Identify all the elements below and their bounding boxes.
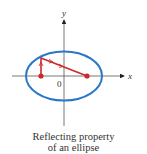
x-axis-label: x [127, 71, 132, 81]
origin-label: 0 [57, 79, 62, 89]
focus-right [84, 73, 89, 78]
caption-line-2: of an ellipse [0, 142, 147, 153]
focus-left [38, 73, 43, 78]
caption-line-1: Reflecting property [0, 131, 147, 142]
y-axis-label: y [61, 8, 66, 18]
